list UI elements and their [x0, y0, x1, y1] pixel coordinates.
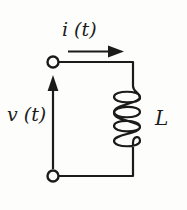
inductance-label: L: [155, 108, 168, 128]
current-label: i (t): [62, 20, 97, 39]
wire-top: [59, 62, 134, 86]
top-terminal-node: [48, 57, 59, 68]
circuit-diagram-figure: i (t) v (t) L: [0, 0, 187, 210]
bottom-terminal-node: [48, 171, 59, 182]
voltage-label: v (t): [7, 105, 46, 124]
coil-inductor-icon: [114, 86, 140, 152]
wire-bottom: [59, 152, 134, 176]
voltage-arrow: [48, 75, 59, 169]
current-arrow: [68, 45, 124, 57]
